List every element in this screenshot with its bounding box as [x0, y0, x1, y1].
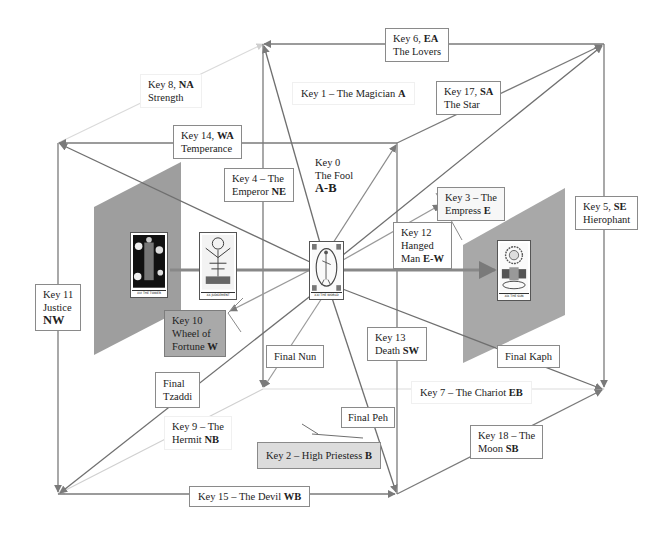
label-key15-the-devil: Key 15 – The Devil WB [189, 486, 310, 507]
world-card-caption: XXI THE WORLD [311, 292, 342, 298]
label-key9-the-hermit: Key 9 – The Hermit NB [164, 416, 232, 450]
label-key13-death: Key 13 Death SW [367, 327, 427, 361]
label-key7-the-chariot: Key 7 – The Chariot EB [411, 381, 532, 404]
label-key3-the-empress: Key 3 – The Empress E [437, 187, 505, 221]
tower-card-caption: XVI THE TOWER [132, 290, 166, 296]
cube-of-space-diagram: XVI THE TOWER XX JUDGEMENT XXI THE WORLD [0, 0, 670, 537]
label-key6-the-lovers: Key 6, EA The Lovers [385, 28, 449, 62]
world-card-art [312, 244, 341, 291]
label-key18-the-moon: Key 18 – The Moon SB [470, 425, 543, 459]
label-key1-the-magician: Key 1 – The Magician A [292, 82, 415, 105]
label-key4-the-emperor: Key 4 – The Emperor NE [224, 168, 294, 202]
card-the-world: XXI THE WORLD [309, 241, 344, 300]
label-key17-the-star: Key 17, SA The Star [436, 81, 501, 115]
label-key11-justice: Key 11 Justice NW [35, 284, 81, 331]
sun-card-caption: XIX THE SUN [499, 293, 529, 299]
label-key14-temperance: Key 14, WA Temperance [173, 125, 242, 159]
label-final-nun: Final Nun [266, 345, 324, 368]
label-key2-high-priestess: Key 2 – High Priestess B [257, 442, 381, 469]
label-key0-the-fool: Key 0 The Fool A-B [312, 155, 356, 196]
judgement-card-art [202, 235, 234, 290]
label-key5-hierophant: Key 5, SE Hierophant [575, 196, 638, 230]
card-the-sun: XIX THE SUN [497, 240, 531, 301]
label-final-tzaddi: Final Tzaddi [155, 372, 200, 408]
label-final-kaph: Final Kaph [497, 345, 560, 368]
card-the-tower: XVI THE TOWER [130, 232, 168, 298]
tower-card-art [133, 235, 165, 288]
label-final-peh: Final Peh [341, 407, 395, 428]
label-key8-strength: Key 8, NA Strength [140, 74, 202, 108]
card-judgement: XX JUDGEMENT [199, 232, 237, 300]
label-key10-wheel-of-fortune: Key 10 Wheel of Fortune W [164, 310, 226, 357]
judgement-card-caption: XX JUDGEMENT [201, 292, 235, 298]
label-key12-hanged-man: Key 12 Hanged Man E-W [393, 222, 452, 269]
sun-card-art [500, 243, 528, 292]
